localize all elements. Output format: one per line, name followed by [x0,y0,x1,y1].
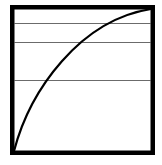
diagram-canvas [0,0,162,165]
diagram-background [0,0,162,165]
